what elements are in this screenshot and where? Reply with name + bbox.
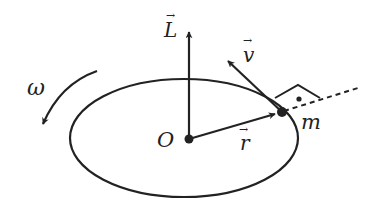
angular-momentum-vector-marker: →	[166, 9, 175, 22]
mass-point	[277, 107, 287, 117]
angular-velocity-label: ω	[27, 75, 45, 100]
position-arrow	[189, 114, 275, 139]
right-angle-dot	[296, 96, 301, 101]
rotation-arrow	[43, 71, 97, 124]
origin-point	[185, 135, 194, 144]
orbit-ellipse	[70, 79, 298, 197]
radial-extension-dashed	[284, 88, 358, 111]
mass-label: m	[301, 110, 321, 134]
angular-momentum-diagram: L → r → v → O m ω	[0, 0, 378, 210]
position-vector-marker: →	[239, 123, 248, 136]
right-angle-marker	[275, 85, 320, 98]
velocity-arrow	[228, 61, 282, 112]
velocity-vector-marker: →	[243, 34, 252, 47]
origin-label: O	[157, 128, 174, 152]
